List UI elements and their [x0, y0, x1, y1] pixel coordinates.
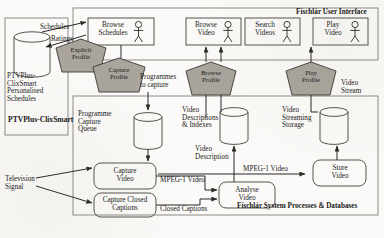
datastore-label-video-streaming-storage: VideoStreamingStorage	[282, 107, 312, 130]
datastore-programme-capture-queue-shape	[134, 113, 162, 150]
datastore-ptvplus-schedules-shape	[14, 32, 50, 77]
actor-icon	[223, 21, 232, 42]
flow-label-ratings: Ratings	[51, 36, 73, 44]
datastore-video-streaming-storage-shape	[320, 108, 348, 145]
datastore-label-ptvplus-schedules: PTVPlus-ClixSmartPersonalisedSchedules	[7, 73, 43, 103]
datastore-label-video-descriptions: VideoDescriptions& Indexes	[182, 107, 218, 130]
flow-label-television-signal: TelevisionSignal	[5, 176, 35, 191]
flow-label-mpeg1-video-right: MPEG-1 Video	[243, 166, 288, 174]
profile-label-play: PlayProfile	[292, 70, 330, 84]
profile-label-capture: CaptureProfile	[100, 67, 138, 81]
flow-label-video-description: VideoDescription	[195, 146, 229, 161]
profile-label-browse: BrowseProfile	[192, 70, 230, 84]
flow-label-programmes-to-capture: Programmesto capture	[140, 74, 176, 89]
process-label-store-video: StoreVideo	[319, 165, 361, 180]
process-label-capture-video: CaptureVideo	[104, 168, 146, 183]
process-label-capture-closed-captions: Capture ClosedCaptions	[96, 197, 154, 212]
datastore-video-descriptions-shape	[220, 108, 248, 145]
region-title-system-processes: Físchlár System Processes & Databases	[237, 203, 357, 211]
flow-label-schedules: Schedules	[40, 24, 69, 32]
use-case-label-search-videos: SearchVideos	[248, 22, 282, 37]
use-case-label-play-video: PlayVideo	[316, 22, 350, 37]
flow-label-video-stream: VideoStream	[341, 80, 361, 95]
use-case-label-browse-video: BrowseVideo	[189, 22, 223, 37]
actor-icon	[350, 21, 359, 42]
use-case-label-browse-schedules: BrowseSchedules	[92, 22, 134, 37]
region-title-ptvplus: PTVPlus-ClixSmart	[8, 116, 65, 124]
profile-label-explicit: ExplicitProfile	[62, 47, 100, 61]
actor-icon	[282, 21, 291, 42]
process-label-analyse-video: AnalyseVideo	[226, 187, 268, 202]
actor-icon	[134, 21, 143, 42]
flow-label-mpeg1-video-left: MPEG-1 Video	[160, 177, 205, 185]
flow-label-closed-captions: Closed Captions	[160, 206, 207, 214]
datastore-label-programme-capture-queue: ProgrammeCaptureQueue	[78, 111, 112, 134]
region-title-user-interface: Físchlár User Interface	[296, 9, 367, 17]
